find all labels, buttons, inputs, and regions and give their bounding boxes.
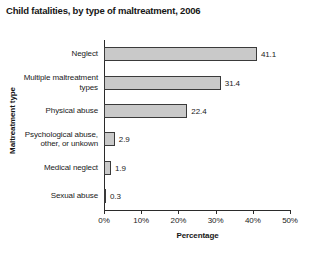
bar: [104, 189, 106, 203]
x-tick-label: 30%: [201, 216, 231, 225]
category-label: Psychological abuse, other, or unkown: [6, 130, 98, 149]
chart-title: Child fatalities, by type of maltreatmen…: [6, 5, 200, 16]
bar: [104, 161, 111, 175]
category-label: Medical neglect: [6, 163, 98, 173]
x-tick-mark: [216, 210, 217, 214]
category-label: Multiple maltreatment types: [6, 73, 98, 92]
x-tick-label: 50%: [275, 216, 305, 225]
bar-value-label: 1.9: [115, 163, 126, 172]
x-axis-line: [104, 210, 291, 211]
bar: [104, 76, 221, 90]
x-axis-title: Percentage: [104, 231, 291, 240]
x-tick-mark: [290, 210, 291, 214]
x-tick-mark: [253, 210, 254, 214]
x-tick-mark: [104, 210, 105, 214]
bar-value-label: 31.4: [225, 78, 240, 87]
bar-value-label: 2.9: [119, 135, 130, 144]
x-tick-label: 0%: [89, 216, 119, 225]
x-tick-label: 40%: [238, 216, 268, 225]
plot-area: 41.131.422.42.91.90.3: [104, 40, 290, 210]
category-label: Neglect: [6, 49, 98, 59]
x-tick-mark: [178, 210, 179, 214]
bar-value-label: 22.4: [191, 106, 206, 115]
category-label: Sexual abuse: [6, 191, 98, 201]
bar: [104, 104, 187, 118]
bar: [104, 47, 257, 61]
x-tick-label: 10%: [126, 216, 156, 225]
bar: [104, 132, 115, 146]
category-label: Physical abuse: [6, 106, 98, 116]
bar-value-label: 0.3: [110, 191, 121, 200]
x-tick-mark: [141, 210, 142, 214]
bar-value-label: 41.1: [261, 50, 276, 59]
x-tick-label: 20%: [163, 216, 193, 225]
